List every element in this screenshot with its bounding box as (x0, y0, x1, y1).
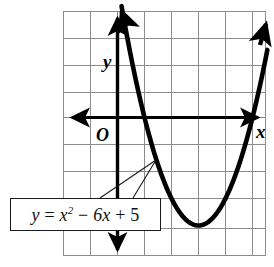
equation-minus: − (78, 205, 88, 225)
equation-plus: + (115, 205, 125, 225)
y-axis-label: y (101, 51, 112, 72)
equation-term3: 5 (130, 205, 139, 225)
equation-term1-base: x (59, 205, 67, 225)
equation-term2: 6x (93, 205, 110, 225)
equation-text: y = x2 − 6x + 5 (32, 204, 140, 226)
x-axis-label: x (255, 121, 266, 142)
equation-lhs: y (32, 205, 40, 225)
origin-label: O (96, 125, 109, 145)
equation-callout: y = x2 − 6x + 5 (10, 198, 161, 231)
equation-equals: = (44, 205, 54, 225)
